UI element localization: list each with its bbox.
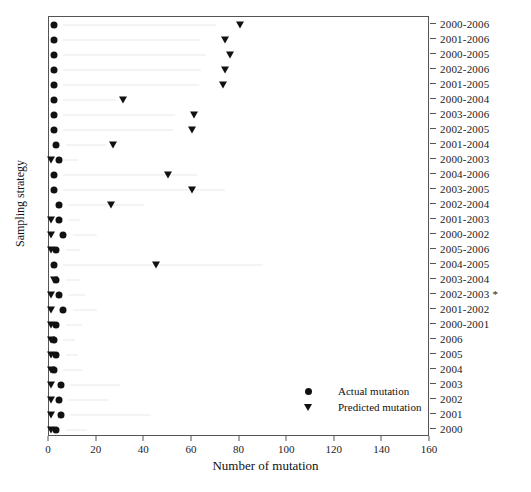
actual-mutation-marker bbox=[53, 276, 60, 283]
actual-mutation-marker bbox=[55, 291, 62, 298]
data-row bbox=[49, 152, 428, 167]
y-axis-tick bbox=[430, 368, 436, 369]
y-axis-tick bbox=[430, 383, 436, 384]
circle-marker-icon bbox=[300, 388, 316, 395]
category-label-row: 2004 bbox=[430, 361, 463, 376]
data-row bbox=[49, 137, 428, 152]
x-axis-title: Number of mutation bbox=[0, 458, 531, 474]
range-line bbox=[68, 399, 108, 400]
category-label-row: 2000-2002 bbox=[430, 226, 489, 241]
range-line bbox=[66, 279, 80, 280]
data-row bbox=[49, 107, 428, 122]
range-line bbox=[68, 219, 80, 220]
category-label-row: 2002 bbox=[430, 391, 463, 406]
y-axis-tick bbox=[430, 188, 436, 189]
category-label-row: 2004-2006 bbox=[430, 166, 489, 181]
y-axis-tick bbox=[430, 98, 436, 99]
x-axis-tick-label: 140 bbox=[373, 443, 390, 455]
actual-mutation-marker bbox=[53, 321, 60, 328]
category-label-row: 2000-2006 bbox=[430, 16, 489, 31]
category-label: 2004-2005 bbox=[440, 258, 489, 270]
predicted-mutation-marker bbox=[190, 111, 198, 118]
category-label: 2003-2004 bbox=[440, 273, 489, 285]
range-line bbox=[63, 99, 115, 100]
category-label-row: 2004-2005 bbox=[430, 256, 489, 271]
range-line bbox=[63, 24, 215, 25]
y-axis-tick bbox=[430, 83, 436, 84]
actual-mutation-marker bbox=[53, 426, 60, 433]
data-row bbox=[49, 347, 428, 362]
category-label-row: 2001-2004 bbox=[430, 136, 489, 151]
y-axis-tick bbox=[430, 38, 436, 39]
y-axis-tick bbox=[430, 428, 436, 429]
data-row bbox=[49, 227, 428, 242]
category-label: 2005 bbox=[440, 348, 463, 360]
range-line bbox=[63, 114, 175, 115]
predicted-mutation-marker bbox=[47, 306, 55, 313]
actual-mutation-marker bbox=[55, 156, 62, 163]
range-line bbox=[73, 309, 97, 310]
category-label: 2000-2005 bbox=[440, 48, 489, 60]
predicted-mutation-marker bbox=[164, 171, 172, 178]
plot-area bbox=[48, 16, 429, 436]
chart-legend: Actual mutation Predicted mutation bbox=[300, 383, 430, 415]
predicted-mutation-marker bbox=[236, 21, 244, 28]
legend-label-actual: Actual mutation bbox=[338, 385, 409, 397]
x-axis-tick bbox=[95, 436, 96, 441]
x-axis-tick bbox=[333, 436, 334, 441]
actual-mutation-marker bbox=[50, 81, 57, 88]
predicted-mutation-marker bbox=[219, 81, 227, 88]
category-label-row: 2005 bbox=[430, 346, 463, 361]
category-label: 2003 bbox=[440, 378, 463, 390]
range-line bbox=[63, 339, 75, 340]
data-row bbox=[49, 242, 428, 257]
category-label-row: 2001-2006 bbox=[430, 31, 489, 46]
y-axis-tick bbox=[430, 113, 436, 114]
x-axis-tick bbox=[381, 436, 382, 441]
x-axis-tick-label: 40 bbox=[138, 443, 149, 455]
category-label: 2000-2003 bbox=[440, 153, 489, 165]
category-label-row: 2002-2004 bbox=[430, 196, 489, 211]
y-axis-tick bbox=[430, 53, 436, 54]
category-label-row: 2000 bbox=[430, 421, 463, 436]
data-row bbox=[49, 332, 428, 347]
data-row bbox=[49, 362, 428, 377]
range-line bbox=[63, 159, 77, 160]
predicted-mutation-marker bbox=[109, 141, 117, 148]
category-label: 2002 bbox=[440, 393, 463, 405]
x-axis-tick-label: 100 bbox=[278, 443, 295, 455]
category-label-row: 2001 bbox=[430, 406, 463, 421]
data-row bbox=[49, 302, 428, 317]
data-row bbox=[49, 182, 428, 197]
range-line bbox=[63, 54, 206, 55]
triangle-down-marker-icon bbox=[300, 404, 316, 411]
category-label: 2001 bbox=[440, 408, 463, 420]
category-label: 2002-2005 bbox=[440, 123, 489, 135]
category-label-row: 2001-2003 bbox=[430, 211, 489, 226]
actual-mutation-marker bbox=[60, 306, 67, 313]
actual-mutation-marker bbox=[50, 96, 57, 103]
data-row bbox=[49, 92, 428, 107]
range-line bbox=[63, 264, 263, 265]
range-line bbox=[68, 294, 85, 295]
category-label: 2000-2002 bbox=[440, 228, 489, 240]
predicted-mutation-marker bbox=[226, 51, 234, 58]
category-label: 2006 bbox=[440, 333, 463, 345]
category-label: 2001-2006 bbox=[440, 33, 489, 45]
category-label-row: 2006 bbox=[430, 331, 463, 346]
actual-mutation-marker bbox=[53, 351, 60, 358]
data-row bbox=[49, 197, 428, 212]
x-axis-tick bbox=[190, 436, 191, 441]
x-axis-tick bbox=[143, 436, 144, 441]
x-axis-tick bbox=[48, 436, 49, 441]
data-row bbox=[49, 17, 428, 32]
y-axis-tick bbox=[430, 203, 436, 204]
predicted-mutation-marker bbox=[107, 201, 115, 208]
actual-mutation-marker bbox=[50, 111, 57, 118]
actual-mutation-marker bbox=[50, 261, 57, 268]
x-axis-tick-label: 20 bbox=[90, 443, 101, 455]
category-label: 2002-2003 * bbox=[440, 288, 498, 300]
category-label: 2003-2005 bbox=[440, 183, 489, 195]
range-line bbox=[66, 324, 83, 325]
y-axis-tick bbox=[430, 143, 436, 144]
